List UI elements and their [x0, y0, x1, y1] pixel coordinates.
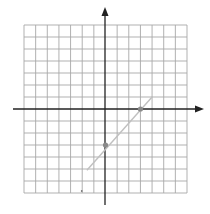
plotted-points — [81, 106, 143, 192]
data-point — [138, 106, 143, 111]
coordinate-plane — [0, 0, 210, 214]
data-point — [103, 142, 108, 147]
stray-mark — [81, 190, 83, 192]
x-axis-arrow-icon — [195, 106, 204, 113]
y-axis-arrow-icon — [102, 7, 109, 16]
